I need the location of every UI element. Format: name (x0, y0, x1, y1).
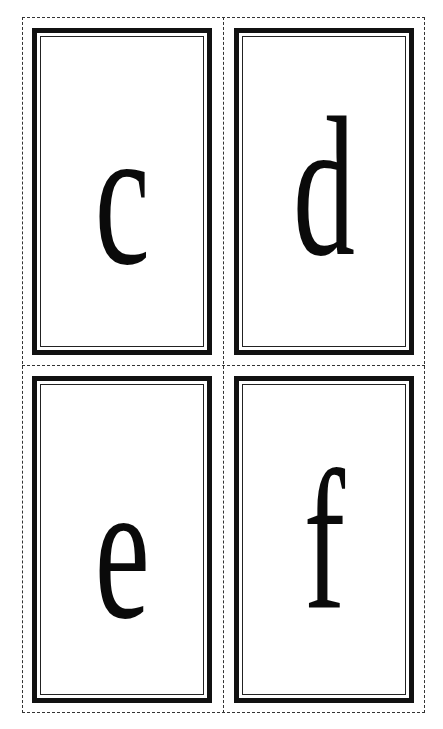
flashcard-letter: d (293, 87, 355, 287)
flashcard-inner-border: d (242, 36, 406, 347)
flashcard-c: c (32, 28, 212, 355)
flashcard-letter: c (94, 96, 149, 296)
cut-guide-horizontal (22, 365, 425, 366)
flashcard-inner-border: c (40, 36, 204, 347)
flashcard-inner-border: e (40, 384, 204, 695)
flashcard-letter: e (94, 450, 149, 650)
flashcard-inner-border: f (242, 384, 406, 695)
flashcard-e: e (32, 376, 212, 703)
flashcard-f: f (234, 376, 414, 703)
flashcard-letter: f (303, 440, 344, 640)
flashcard-d: d (234, 28, 414, 355)
